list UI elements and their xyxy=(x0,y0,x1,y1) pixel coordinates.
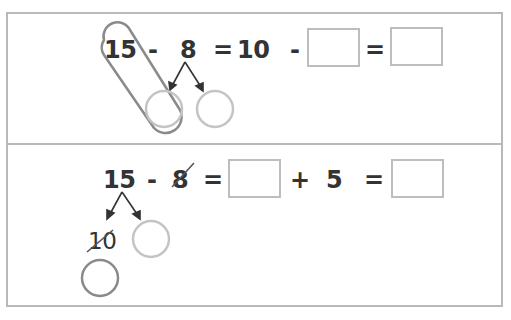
p2-equals: = xyxy=(203,168,223,192)
p1-minus: - xyxy=(148,38,157,62)
p1-answer-box-2[interactable] xyxy=(390,27,443,66)
p2-number-8-crossed: 8 xyxy=(172,168,188,192)
p2-number-5: 5 xyxy=(326,168,342,192)
p2-split-ten-crossed: 10 xyxy=(88,230,116,253)
p1-equals-2: = xyxy=(365,38,385,62)
p1-answer-box-1[interactable] xyxy=(307,28,360,67)
p2-number-15: 15 xyxy=(103,168,135,192)
p2-answer-box-1[interactable] xyxy=(228,159,281,198)
p1-minus-2: - xyxy=(290,38,299,62)
p2-plus: + xyxy=(290,168,310,192)
p2-answer-box-2[interactable] xyxy=(391,159,444,198)
p2-minus: - xyxy=(147,168,156,192)
p1-equals: = xyxy=(213,38,233,62)
p1-number-10: 10 xyxy=(237,38,269,62)
p1-number-8: 8 xyxy=(180,38,196,62)
p1-number-15: 15 xyxy=(104,38,136,62)
p2-equals-2: = xyxy=(364,168,384,192)
